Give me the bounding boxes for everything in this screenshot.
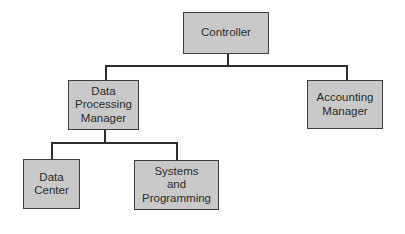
connector-controller-down [227,54,229,65]
node-controller: Controller [183,12,269,54]
connector-to-accounting-manager [346,65,348,80]
node-label: Controller [201,26,251,40]
connector-to-systems-programming [176,142,178,160]
node-data-center: Data Center [23,159,80,209]
node-accounting-manager: Accounting Manager [307,80,383,129]
connector-level3-bar [51,142,177,144]
node-label: Data Center [34,171,69,198]
node-label: Systems and Programming [142,165,211,206]
connector-to-dp-manager [105,65,107,80]
node-label: Data Processing Manager [75,85,132,126]
connector-to-data-center [51,142,53,159]
connector-level2-bar [105,65,347,67]
org-chart: Controller Data Processing Manager Accou… [0,0,405,234]
node-data-processing-manager: Data Processing Manager [68,80,139,130]
connector-dp-manager-down [104,130,106,142]
node-systems-and-programming: Systems and Programming [134,160,219,210]
node-label: Accounting Manager [317,91,374,118]
